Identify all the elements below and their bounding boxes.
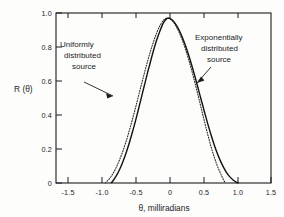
annotation-exponential-line-1: Exponentially [195,33,243,42]
annotation-exponential-line-2: distributed [201,44,238,53]
x-tick-label-05: 0.5 [199,188,210,197]
x-axis-ticks [68,177,271,183]
x-tick-label-15: 1.5 [266,188,277,197]
x-tick-label-neg15: -1.5 [61,188,74,197]
annotation-exponentially-distributed-source: Exponentially distributed source [195,33,243,83]
annotation-uniform-line-2: distributed [64,51,101,60]
y-tick-label-08: 0.8 [41,43,52,52]
plot-area: 1.0 0.8 0.6 0.4 0.2 0 -1.5 -1.0 -0.5 0 0… [0,0,284,217]
x-tick-label-0: 0 [168,188,172,197]
series-group [105,18,238,183]
chart-screenshot: 1.0 0.8 0.6 0.4 0.2 0 -1.5 -1.0 -0.5 0 0… [0,0,284,217]
y-tick-label-04: 0.4 [41,111,52,120]
top-axis-ticks [68,13,238,18]
series-exponentially-distributed-source [105,18,225,183]
y-tick-label-06: 0.6 [41,77,52,86]
y-axis-title: R (θ) [14,84,33,94]
annotation-uniform-line-1: Uniformly [60,40,94,49]
x-tick-label-neg05: -0.5 [129,188,142,197]
annotation-uniformly-distributed-source: Uniformly distributed source [60,40,113,99]
y-tick-label-0: 0 [48,179,52,188]
x-axis-title: θ, milliradians [138,203,189,213]
y-tick-label-02: 0.2 [41,145,52,154]
series-uniformly-distributed-source [111,18,239,183]
y-tick-label-1: 1.0 [41,9,52,18]
annotation-uniform-line-3: source [72,62,97,71]
annotation-exponential-arrow [197,67,211,83]
y-axis-ticks [56,13,62,183]
annotation-exponential-line-3: source [207,55,232,64]
x-tick-label-10: 1.0 [233,188,244,197]
x-tick-label-neg10: -1.0 [95,188,108,197]
annotation-uniform-arrow [84,82,113,99]
